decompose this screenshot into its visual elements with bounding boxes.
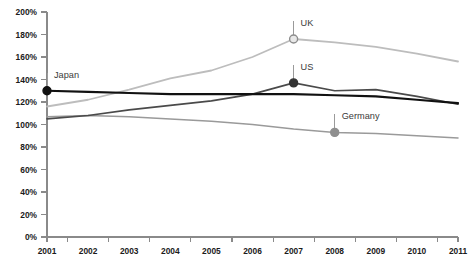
x-tick-label: 2006 [243,246,262,256]
y-tick-label: 120% [16,97,38,107]
y-tick-label: 140% [16,75,38,85]
line-chart: 0%20%40%60%80%100%120%140%160%180%200% 2… [0,0,470,272]
y-tick-label: 20% [20,210,37,220]
x-tick-label: 2009 [366,246,385,256]
x-tick-label: 2001 [38,246,57,256]
series-label-us: US [301,62,314,72]
marker-dot-japan [43,87,51,95]
chart-canvas: 0%20%40%60%80%100%120%140%160%180%200% 2… [0,0,470,272]
marker-dot-germany [331,128,339,136]
x-tick-label: 2003 [120,246,139,256]
x-tick-label: 2002 [79,246,98,256]
y-tick-label: 100% [16,120,38,130]
y-tick-label: 60% [20,165,37,175]
x-tick-label: 2005 [202,246,221,256]
chart-background [0,0,470,272]
y-tick-label: 180% [16,30,38,40]
y-tick-label: 160% [16,52,38,62]
marker-dot-uk [290,35,298,43]
series-label-japan: Japan [54,70,79,80]
y-tick-label: 0% [25,232,38,242]
x-tick-label: 2011 [449,246,468,256]
x-tick-label: 2004 [161,246,180,256]
series-label-germany: Germany [342,111,380,121]
y-tick-label: 200% [16,7,38,17]
series-label-uk: UK [301,18,315,28]
y-tick-label: 80% [20,142,37,152]
x-tick-label: 2008 [325,246,344,256]
x-tick-label: 2007 [284,246,303,256]
marker-dot-us [290,79,298,87]
y-tick-label: 40% [20,187,37,197]
x-tick-label: 2010 [408,246,427,256]
